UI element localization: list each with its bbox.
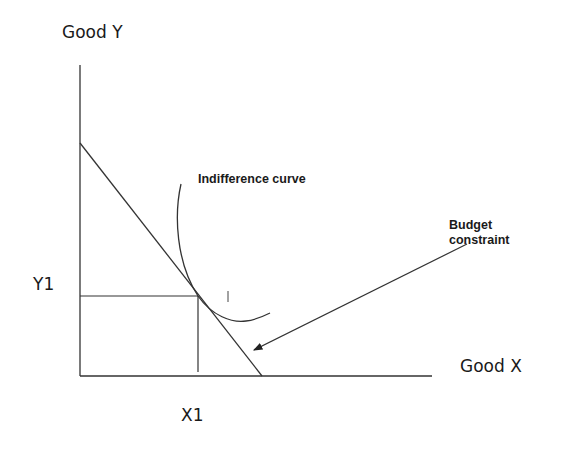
x-axis-label: Good X — [460, 356, 522, 376]
indifference-curve — [177, 184, 270, 321]
budget-constraint-label-line2: constraint — [449, 233, 509, 247]
budget-arrow — [254, 244, 467, 350]
y-axis-label: Good Y — [62, 22, 123, 42]
budget-constraint-label-line1: Budget — [449, 218, 492, 232]
y1-label: Y1 — [33, 274, 54, 294]
indifference-curve-label: Indifference curve — [198, 172, 306, 186]
x1-label: X1 — [181, 405, 203, 425]
